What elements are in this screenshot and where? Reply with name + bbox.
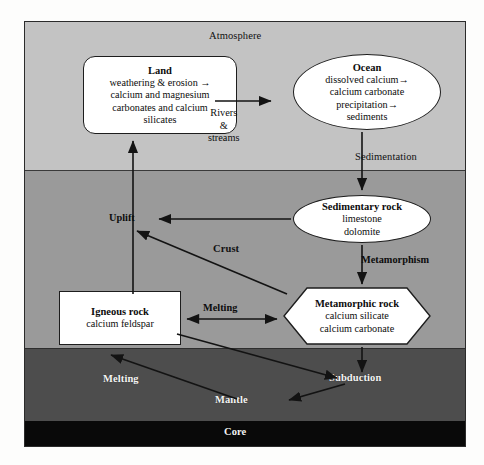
edge-label-rivers: Rivers & streams xyxy=(208,107,239,145)
node-sedimentary-rock-title: Sedimentary rock xyxy=(322,200,402,213)
node-ocean-line-4: sediments xyxy=(347,111,388,123)
node-ocean-line-2: calcium carbonate xyxy=(330,86,404,98)
edge-label-rivers-line1: Rivers xyxy=(208,107,239,120)
node-land-line-4: silicates xyxy=(144,114,177,126)
node-sedimentary-rock-line-2: dolomite xyxy=(344,226,380,238)
node-ocean-line-1: dissolved calcium→ xyxy=(325,74,408,86)
edge-label-uplift: Uplift xyxy=(109,212,135,223)
diagram-canvas: Atmosphere Sedimentation Crust Mantle Me… xyxy=(0,0,484,465)
layer-label-mantle: Mantle xyxy=(215,394,248,405)
edge-label-melting-mantle: Melting xyxy=(103,373,139,384)
layer-label-crust: Crust xyxy=(213,243,239,254)
edge-label-rivers-line3: streams xyxy=(208,132,239,145)
node-metamorphic-rock-line-1: calcium silicate xyxy=(325,310,389,322)
diagram-frame: Atmosphere Sedimentation Crust Mantle Me… xyxy=(24,21,466,447)
layer-mantle xyxy=(25,349,465,421)
node-ocean-line-3: precipitation→ xyxy=(336,99,398,111)
edge-label-melting-crust: Melting xyxy=(203,302,237,313)
node-metamorphic-rock-line-2: calcium carbonate xyxy=(320,323,394,335)
layer-label-core: Core xyxy=(224,426,246,437)
node-ocean[interactable]: Ocean dissolved calcium→ calcium carbona… xyxy=(293,54,441,130)
layer-label-atmosphere: Atmosphere xyxy=(209,30,261,41)
node-igneous-rock[interactable]: Igneous rock calcium feldspar xyxy=(59,291,181,345)
node-land-title: Land xyxy=(148,64,172,77)
node-land-line-2: calcium and magnesium xyxy=(110,89,209,101)
node-metamorphic-rock[interactable]: Metamorphic rock calcium silicate calciu… xyxy=(283,287,431,345)
node-land-line-1: weathering & erosion → xyxy=(110,77,211,89)
node-igneous-rock-line-1: calcium feldspar xyxy=(86,318,154,330)
node-land-line-3: carbonates and calcium xyxy=(112,102,208,114)
node-igneous-rock-title: Igneous rock xyxy=(91,305,149,318)
edge-label-subduction: Subduction xyxy=(329,372,381,383)
edge-label-sedimentation: Sedimentation xyxy=(355,151,417,162)
node-ocean-title: Ocean xyxy=(353,61,382,74)
node-sedimentary-rock[interactable]: Sedimentary rock limestone dolomite xyxy=(293,195,431,243)
edge-label-rivers-line2: & xyxy=(208,120,239,133)
node-sedimentary-rock-line-1: limestone xyxy=(342,213,382,225)
edge-label-metamorphism: Metamorphism xyxy=(361,254,429,265)
node-metamorphic-rock-title: Metamorphic rock xyxy=(315,297,399,310)
